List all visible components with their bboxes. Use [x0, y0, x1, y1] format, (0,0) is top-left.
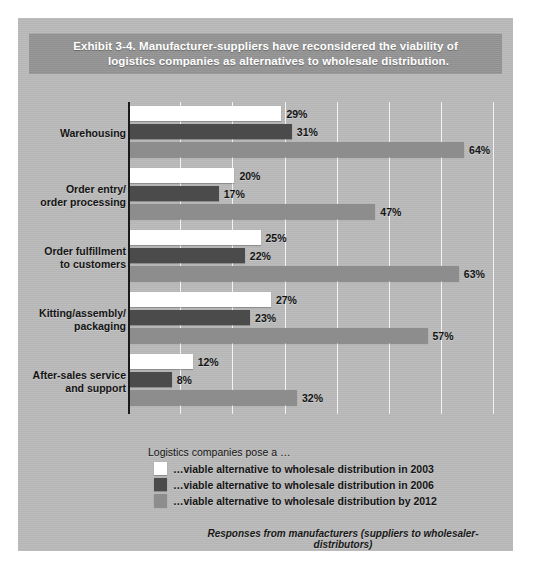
- legend-item: …viable alternative to wholesale distrib…: [148, 494, 508, 507]
- category-label: Warehousing: [18, 127, 126, 140]
- chart-footnote: Responses from manufacturers (suppliers …: [178, 528, 508, 550]
- bar-value-label: 64%: [469, 144, 490, 156]
- legend-label: …viable alternative to wholesale distrib…: [173, 463, 434, 475]
- bar-series-2: [130, 328, 428, 343]
- bar-value-label: 25%: [266, 232, 287, 244]
- bar-value-label: 57%: [433, 330, 454, 342]
- bar-value-label: 17%: [224, 188, 245, 200]
- bar-series-1: [130, 248, 245, 263]
- bar-series-0: [130, 168, 234, 183]
- bar-series-2: [130, 390, 297, 405]
- category-label: Order fulfillmentto customers: [18, 245, 126, 270]
- bar-series-2: [130, 204, 375, 219]
- bar-series-1: [130, 124, 292, 139]
- legend-label: …viable alternative to wholesale distrib…: [173, 479, 434, 491]
- legend-swatch-series-0: [154, 462, 167, 475]
- bar-group: Warehousing29%31%64%: [18, 102, 513, 164]
- bar-value-label: 27%: [276, 294, 297, 306]
- legend-swatch-series-1: [154, 478, 167, 491]
- chart-plot-area: Warehousing29%31%64%Order entry/order pr…: [18, 90, 513, 425]
- bar-series-2: [130, 266, 459, 281]
- category-label: Order entry/order processing: [18, 183, 126, 208]
- legend-label: …viable alternative to wholesale distrib…: [173, 495, 437, 507]
- bar-series-0: [130, 292, 271, 307]
- bar-value-label: 12%: [198, 356, 219, 368]
- bar-value-label: 23%: [255, 312, 276, 324]
- bar-value-label: 32%: [302, 392, 323, 404]
- bar-series-0: [130, 230, 261, 245]
- bar-value-label: 47%: [380, 206, 401, 218]
- chart-legend: Logistics companies pose a … …viable alt…: [148, 446, 508, 510]
- legend-item: …viable alternative to wholesale distrib…: [148, 462, 508, 475]
- bar-series-2: [130, 142, 464, 157]
- bar-series-1: [130, 372, 172, 387]
- bar-value-label: 63%: [464, 268, 485, 280]
- bar-group: Kitting/assembly/packaging27%23%57%: [18, 288, 513, 350]
- exhibit-panel: Exhibit 3-4. Manufacturer-suppliers have…: [18, 18, 513, 551]
- legend-items: …viable alternative to wholesale distrib…: [148, 462, 508, 507]
- bar-value-label: 22%: [250, 250, 271, 262]
- category-label: After-sales serviceand support: [18, 369, 126, 394]
- bar-series-1: [130, 310, 250, 325]
- exhibit-title-bar: Exhibit 3-4. Manufacturer-suppliers have…: [29, 33, 502, 74]
- legend-swatch-series-2: [154, 494, 167, 507]
- bar-series-0: [130, 106, 281, 121]
- exhibit-title-line2: logistics companies as alternatives to w…: [51, 54, 481, 69]
- legend-title: Logistics companies pose a …: [148, 446, 508, 458]
- bar-value-label: 29%: [286, 108, 307, 120]
- bar-value-label: 20%: [239, 170, 260, 182]
- bar-value-label: 31%: [297, 126, 318, 138]
- bar-group: Order fulfillmentto customers25%22%63%: [18, 226, 513, 288]
- legend-item: …viable alternative to wholesale distrib…: [148, 478, 508, 491]
- bar-series-1: [130, 186, 219, 201]
- bar-series-0: [130, 354, 193, 369]
- bar-value-label: 8%: [177, 374, 192, 386]
- bar-group: Order entry/order processing20%17%47%: [18, 164, 513, 226]
- exhibit-title: Exhibit 3-4. Manufacturer-suppliers have…: [51, 39, 481, 68]
- exhibit-title-line1: Exhibit 3-4. Manufacturer-suppliers have…: [73, 40, 458, 52]
- chart-bar-groups: Warehousing29%31%64%Order entry/order pr…: [18, 102, 513, 412]
- category-label: Kitting/assembly/packaging: [18, 307, 126, 332]
- bar-group: After-sales serviceand support12%8%32%: [18, 350, 513, 412]
